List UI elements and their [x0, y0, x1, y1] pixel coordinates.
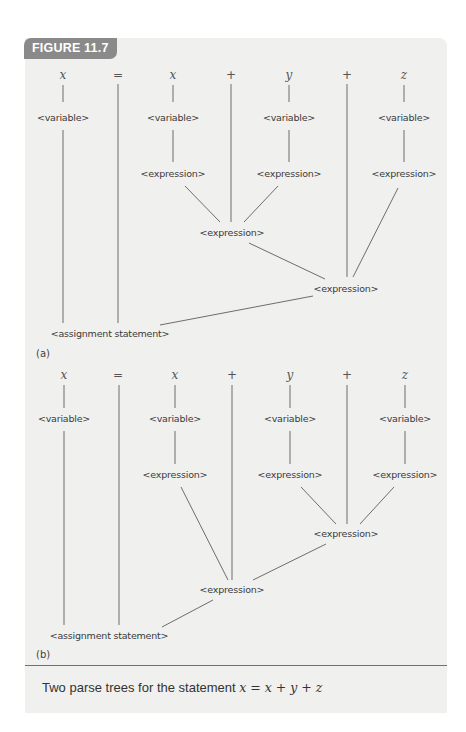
token-z: z — [400, 68, 408, 82]
variable-node: <variable> — [149, 413, 201, 424]
expression-node: <expression> — [258, 469, 323, 480]
variable-node: <variable> — [37, 112, 89, 123]
assignment-statement-node: <assignment statement> — [51, 328, 170, 339]
expression-node: <expression> — [314, 528, 379, 539]
token-z: z — [401, 368, 409, 382]
expression-node: <expression> — [143, 469, 208, 480]
token-equals: = — [113, 68, 123, 82]
variable-node: <variable> — [379, 413, 431, 424]
token-equals: = — [113, 368, 123, 382]
expression-node: <expression> — [200, 227, 265, 238]
token-x: x — [172, 368, 179, 382]
token-y: y — [286, 368, 294, 382]
token-plus: + — [342, 68, 352, 82]
tree-a-label: (a) — [36, 348, 50, 359]
expression-node: <expression> — [200, 584, 265, 595]
variable-node: <variable> — [263, 112, 315, 123]
token-x: x — [60, 68, 67, 82]
assignment-statement-node: <assignment statement> — [50, 630, 169, 641]
tree-b-label: (b) — [36, 649, 50, 660]
expression-node: <expression> — [314, 283, 379, 294]
parse-tree-b: x = x + y + z <variable> <variable> <var… — [36, 368, 437, 660]
token-x: x — [170, 68, 177, 82]
variable-node: <variable> — [264, 413, 316, 424]
caption-equation: x = x + y + z — [239, 680, 322, 695]
expression-node: <expression> — [372, 168, 437, 179]
expression-node: <expression> — [373, 469, 438, 480]
token-plus: + — [342, 368, 352, 382]
token-plus: + — [226, 68, 236, 82]
parse-tree-diagram: x = x + y + z <variable> <variable> <var… — [0, 0, 466, 732]
parse-tree-a: x = x + y + z <variable> <variable> <var… — [36, 68, 436, 359]
caption-text: Two parse trees for the statement — [42, 680, 236, 695]
variable-node: <variable> — [378, 112, 430, 123]
expression-node: <expression> — [257, 168, 322, 179]
token-x: x — [61, 368, 68, 382]
figure-caption: Two parse trees for the statement x = x … — [42, 680, 322, 695]
variable-node: <variable> — [38, 413, 90, 424]
token-y: y — [285, 68, 293, 82]
expression-node: <expression> — [141, 168, 206, 179]
variable-node: <variable> — [147, 112, 199, 123]
token-plus: + — [227, 368, 237, 382]
caption-divider — [25, 665, 447, 666]
